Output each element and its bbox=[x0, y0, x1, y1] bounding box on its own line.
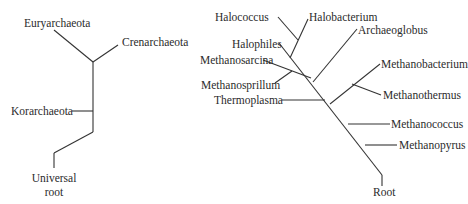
label-crenarchaeota: Crenarchaeota bbox=[122, 36, 188, 48]
label-methanopyrus: Methanopyrus bbox=[399, 139, 465, 151]
label-universal-root-line1: Universal bbox=[24, 172, 84, 184]
label-methanothermus: Methanothermus bbox=[383, 89, 461, 101]
halobacterium-branch bbox=[290, 19, 308, 58]
methanobacterium-branch bbox=[330, 64, 380, 104]
label-halobacterium: Halobacterium bbox=[309, 11, 377, 23]
label-halococcus: Halococcus bbox=[215, 11, 269, 23]
label-methanosarcina: Methanosarcina bbox=[200, 54, 273, 66]
label-methanococcus: Methanococcus bbox=[391, 118, 463, 130]
label-thermoplasma: Thermoplasma bbox=[214, 94, 283, 106]
label-methanobacterium: Methanobacterium bbox=[381, 58, 468, 70]
label-halophiles: Halophiles bbox=[232, 38, 282, 50]
label-korarchaeota: Korarchaeota bbox=[11, 105, 73, 117]
methanothermus-branch bbox=[352, 84, 381, 95]
euryarchaeota-branch bbox=[54, 30, 93, 62]
label-universal-root-line2: root bbox=[24, 186, 84, 198]
main-trunk bbox=[279, 43, 382, 175]
label-root: Root bbox=[373, 186, 395, 198]
archaeoglobus-branch bbox=[313, 29, 357, 82]
label-methanosprillum: Methanosprillum bbox=[201, 79, 280, 91]
crenarchaeota-branch bbox=[93, 45, 118, 62]
label-archaeoglobus: Archaeoglobus bbox=[358, 24, 428, 36]
halococcus-branch bbox=[278, 17, 298, 40]
label-euryarchaeota: Euryarchaeota bbox=[24, 17, 90, 29]
root-branch bbox=[54, 132, 93, 153]
